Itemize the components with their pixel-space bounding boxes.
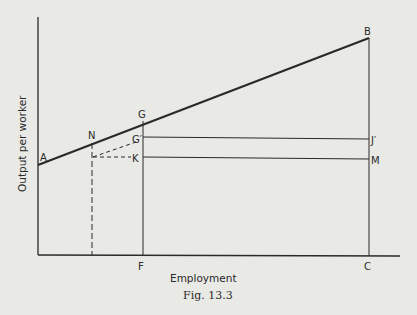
label-M: M [371,155,380,166]
dashed-N-G-prime [93,142,136,157]
figure-caption: Fig. 13.3 [183,289,233,302]
label-C: C [364,261,371,272]
label-F: F [138,261,144,272]
label-G: G [138,109,146,120]
label-G-prime: G′ [132,134,143,145]
line-AB [38,38,369,165]
label-K: K [132,153,139,164]
line-G-prime-J-prime [143,137,369,139]
y-axis-label: Output per worker [16,95,28,192]
label-N: N [88,130,95,141]
label-A: A [40,152,47,163]
x-axis [38,255,400,256]
x-axis-label: Employment [170,272,237,284]
label-J-prime: J′ [370,135,377,146]
line-K-M [143,157,369,159]
label-B: B [364,26,371,37]
diagram-canvas: A B G N G′ K J′ M F C Output per worker … [0,0,417,315]
